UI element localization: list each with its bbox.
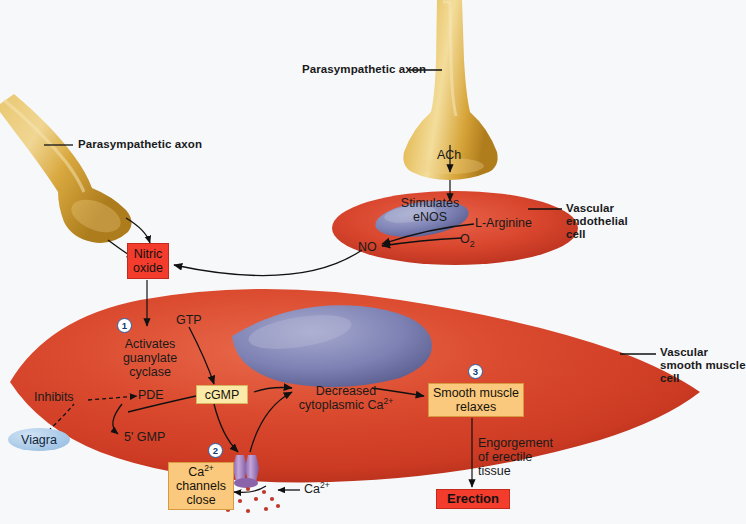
- box-nitric-oxide[interactable]: Nitric oxide: [127, 243, 169, 279]
- box-smooth-muscle-relaxes[interactable]: Smooth muscle relaxes: [428, 383, 524, 417]
- label-vascular-endothelial-cell: Vascular endothelial cell: [566, 202, 628, 241]
- label-ach: ACh: [437, 148, 461, 162]
- label-calcium-ion: Ca2+: [304, 482, 330, 496]
- label-5-gmp: 5' GMP: [124, 430, 165, 444]
- label-l-arginine: L-Arginine: [475, 216, 532, 230]
- step-number-1[interactable]: 1: [117, 318, 132, 333]
- box-erection[interactable]: Erection: [436, 489, 510, 509]
- label-parasympathetic-axon-left: Parasympathetic axon: [78, 138, 202, 151]
- box-ca-channels-close[interactable]: Ca2+ channels close: [168, 462, 234, 510]
- label-gtp: GTP: [176, 313, 202, 327]
- label-decreased-cytoplasmic-ca: Decreased cytoplasmic Ca2+: [290, 384, 402, 412]
- viagra-pill[interactable]: Viagra: [8, 428, 70, 451]
- step-number-3[interactable]: 3: [468, 364, 483, 379]
- arrow-no-to-nitric-oxide-box: [174, 250, 362, 276]
- label-activates-guanylate-cyclase: Activates guanylate cyclase: [108, 337, 192, 379]
- label-vascular-smooth-muscle-cell: Vascular smooth muscle cell: [660, 346, 746, 385]
- label-o2: O2: [460, 232, 475, 249]
- label-no: NO: [358, 240, 377, 254]
- step-number-2[interactable]: 2: [208, 443, 223, 458]
- label-pde: PDE: [138, 388, 164, 402]
- label-engorgement-of-erectile-tissue: Engorgement of erectile tissue: [478, 436, 553, 478]
- box-cgmp[interactable]: cGMP: [196, 385, 248, 404]
- label-stimulates-enos: Stimulates eNOS: [385, 196, 475, 224]
- parasympathetic-axon-left-graphic: [0, 94, 132, 243]
- label-inhibits: Inhibits: [34, 390, 74, 404]
- label-parasympathetic-axon-top: Parasympathetic axon: [302, 63, 426, 76]
